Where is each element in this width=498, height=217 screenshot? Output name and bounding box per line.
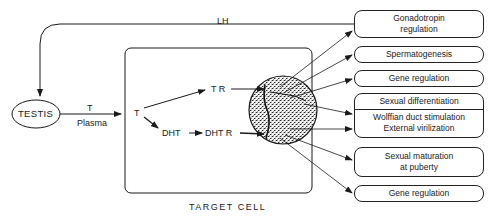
target-cell-label: TARGET CELL: [189, 202, 266, 212]
outcome-divider: [355, 109, 483, 110]
outcome-text: regulation: [400, 24, 437, 35]
plasma-label: Plasma: [77, 118, 107, 128]
outcome-text: Spermatogenesis: [386, 49, 452, 60]
outcome-gene-regulation-1: Gene regulation: [354, 70, 484, 87]
tr-label: T R: [211, 84, 225, 94]
outcome-gene-regulation-2: Gene regulation: [354, 185, 484, 202]
testis-label: TESTIS: [18, 109, 53, 119]
outcome-subtext: Wolffian duct stimulation: [373, 112, 465, 123]
outcome-subtext: External virilization: [384, 123, 455, 134]
outcome-text: Sexual maturation: [385, 151, 454, 162]
dht-label: DHT: [162, 128, 181, 138]
t-to-dht-arrow: [144, 117, 158, 128]
outcome-text: Gonadotropin: [393, 13, 445, 24]
outcome-text: at puberty: [400, 162, 438, 173]
arrow-spermatogenesis: [285, 55, 352, 92]
outcome-text: Sexual differentiation: [379, 96, 458, 107]
lh-label: LH: [217, 16, 229, 26]
outcome-spermatogenesis: Spermatogenesis: [354, 46, 484, 63]
outcome-sexual-maturation: Sexual maturation at puberty: [354, 147, 484, 177]
dhtr-to-nucleus-arrow: [240, 133, 264, 134]
plasma-t-label: T: [87, 103, 93, 113]
outcome-gonadotropin-regulation: Gonadotropin regulation: [354, 10, 484, 38]
dhtr-label: DHT R: [205, 128, 232, 138]
t-to-tr-arrow: [144, 90, 205, 108]
outcome-text: Gene regulation: [389, 73, 450, 84]
arrow-sexual-maturation: [285, 135, 352, 160]
outcome-text: Gene regulation: [389, 188, 450, 199]
arrow-gonadotropin: [280, 31, 352, 87]
cell-t-label: T: [134, 108, 140, 118]
outcome-sexual-differentiation: Sexual differentiation Wolffian duct sti…: [354, 93, 484, 138]
